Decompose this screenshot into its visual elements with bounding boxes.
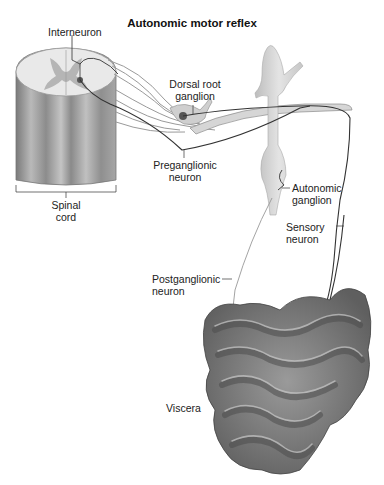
viscera-intestines — [203, 289, 371, 474]
label-line: Spinal — [46, 199, 86, 211]
label-line: cord — [46, 211, 86, 223]
label-preganglionic-neuron: Preganglionic neuron — [148, 159, 222, 183]
label-interneuron: Interneuron — [48, 26, 102, 38]
label-line: Postganglionic — [152, 273, 220, 285]
label-autonomic-ganglion: Autonomic ganglion — [292, 182, 342, 206]
label-line: Dorsal root — [165, 78, 225, 90]
label-line: Autonomic — [292, 182, 342, 194]
spinal-cord — [16, 48, 116, 185]
label-line: neuron — [286, 233, 325, 245]
label-line: neuron — [148, 171, 222, 183]
label-postganglionic-neuron: Postganglionic neuron — [152, 273, 220, 297]
label-line: ganglion — [292, 194, 342, 206]
label-spinal-cord: Spinal cord — [46, 199, 86, 223]
label-line: Sensory — [286, 221, 325, 233]
label-dorsal-root-ganglion: Dorsal root ganglion — [165, 78, 225, 102]
label-viscera: Viscera — [166, 402, 201, 414]
label-line: neuron — [152, 285, 220, 297]
label-sensory-neuron: Sensory neuron — [286, 221, 325, 245]
label-line: Preganglionic — [148, 159, 222, 171]
label-line: ganglion — [165, 90, 225, 102]
